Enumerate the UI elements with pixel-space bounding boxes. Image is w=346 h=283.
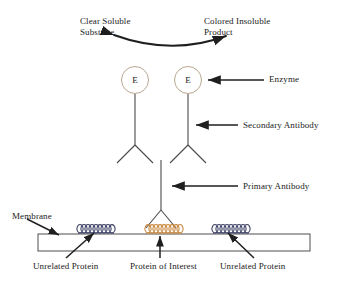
label-colored-insoluble-line1: Colored Insoluble — [204, 16, 270, 26]
label-colored-insoluble-line2: Product — [204, 27, 233, 37]
primary-antibody — [146, 160, 176, 228]
unrelated-protein-band-right — [212, 225, 250, 233]
label-enzyme: Enzyme — [269, 74, 299, 85]
label-primary-antibody: Primary Antibody — [243, 181, 309, 192]
secondary-antibody-right — [170, 94, 206, 163]
label-secondary-antibody: Secondary Antibody — [243, 120, 319, 131]
membrane-strip — [38, 234, 310, 251]
label-unrelated-protein-right: Unrelated Protein — [220, 261, 285, 272]
label-clear-soluble-line2: Substrate — [80, 27, 114, 37]
label-protein-of-interest: Protein of Interest — [130, 261, 197, 272]
label-membrane: Membrane — [12, 211, 52, 222]
protein-of-interest-band — [145, 225, 183, 233]
enzyme-letter-left: E — [125, 75, 145, 85]
label-clear-soluble-substrate: Clear SolubleSubstrate — [80, 16, 131, 38]
western-blot-diagram: Clear SolubleSubstrate Colored Insoluble… — [0, 0, 346, 283]
unrelated-protein-band-left — [77, 225, 115, 233]
label-colored-insoluble-product: Colored InsolubleProduct — [204, 16, 270, 38]
diagram-canvas — [0, 0, 346, 283]
label-unrelated-protein-left: Unrelated Protein — [33, 261, 98, 272]
enzyme-letter-right: E — [178, 75, 198, 85]
label-clear-soluble-line1: Clear Soluble — [80, 16, 131, 26]
secondary-antibody-left — [117, 94, 153, 163]
